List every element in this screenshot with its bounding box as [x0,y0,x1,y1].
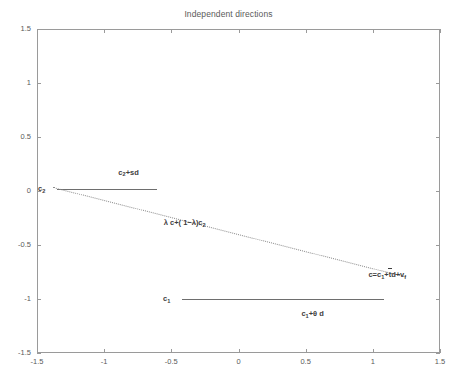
chart-title: Independent directions [0,9,457,19]
c2-plus-sd: c2+sd [118,169,138,177]
x-axis-tick [171,349,172,353]
y-axis-tick [436,137,440,138]
c1-plus-theta-d: c1+θ d [301,310,323,318]
c-definition: c=c1+td+vf [368,271,406,279]
y-axis-tick [37,29,41,30]
x-axis-tick [373,349,374,353]
y-axis-tick [37,299,41,300]
y-axis-tick-label: 1.5 [0,24,31,33]
y-axis-tick [436,83,440,84]
x-axis-tick-label: 1.5 [420,357,457,366]
y-axis-tick [37,137,41,138]
y-axis-tick [37,245,41,246]
series-solid-segment [182,299,384,300]
x-axis-tick [306,349,307,353]
x-axis-tick-label: -1 [84,357,124,366]
lambda-combo: λ c+( 1−λ)c2 [164,219,206,227]
y-axis-tick [436,245,440,246]
y-axis-tick-label: -0.5 [0,240,31,249]
x-axis-tick [171,29,172,33]
x-axis-tick [104,349,105,353]
y-axis-tick [37,353,41,354]
y-axis-tick [436,29,440,30]
y-axis-tick-label: 0.5 [0,132,31,141]
x-axis-tick [239,349,240,353]
y-axis-tick [37,83,41,84]
series-solid-segment [57,189,156,190]
plot-axes-box [37,29,440,353]
x-axis-tick [104,29,105,33]
x-axis-tick [440,29,441,33]
c2-point-label: c2 [38,185,45,193]
x-axis-tick-label: -1.5 [17,357,57,366]
figure-canvas: Independent directions -1.5-1-0.500.511.… [0,0,457,385]
y-axis-tick [436,191,440,192]
x-axis-tick-label: 0.5 [286,357,326,366]
x-axis-tick [306,29,307,33]
y-axis-tick [436,353,440,354]
x-axis-tick [239,29,240,33]
y-axis-tick [436,299,440,300]
x-axis-tick-label: 0 [219,357,259,366]
y-axis-tick-label: 0 [0,186,31,195]
y-axis-tick-label: 1 [0,78,31,87]
x-axis-tick [440,349,441,353]
y-axis-tick-label: -1 [0,294,31,303]
x-axis-tick-label: 1 [353,357,393,366]
y-axis-tick-label: -1.5 [0,348,31,357]
x-axis-tick [373,29,374,33]
c1-point-label: c1 [163,295,170,303]
x-axis-tick-label: -0.5 [151,357,191,366]
